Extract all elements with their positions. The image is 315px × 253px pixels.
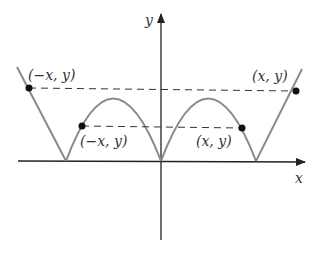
upper-dashed-line	[29, 88, 296, 91]
point-upper-right	[293, 88, 300, 95]
label-upper-left: (−x, y)	[28, 67, 75, 83]
point-lower-right	[239, 125, 246, 132]
label-upper-right: (x, y)	[252, 68, 288, 84]
x-axis-label: x	[295, 170, 303, 186]
point-upper-left	[26, 85, 33, 92]
even-function-diagram: y x (−x, y) (x, y) (−x, y) (x, y)	[0, 0, 315, 253]
point-lower-left	[79, 123, 86, 130]
label-lower-left: (−x, y)	[80, 133, 127, 149]
y-axis-label: y	[144, 12, 154, 28]
lower-dashed-line	[82, 126, 242, 128]
label-lower-right: (x, y)	[196, 133, 232, 149]
